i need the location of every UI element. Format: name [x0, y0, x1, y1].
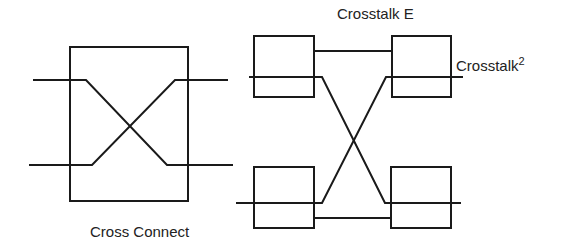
signal-path-bottom-to-top — [236, 77, 463, 203]
switch-box-top-right — [392, 36, 451, 97]
crosstalk-squared-label: Crosstalk2 — [456, 57, 525, 74]
switch-box-bottom-right — [391, 167, 451, 228]
diagram-canvas — [0, 0, 567, 248]
cross-connect-path-bottom-to-top — [29, 80, 228, 165]
crosstalk-squared-exponent: 2 — [519, 55, 525, 67]
crosstalk-squared-base: Crosstalk — [456, 57, 519, 74]
switch-box-bottom-left — [254, 167, 314, 228]
cross-connect-label: Cross Connect — [90, 223, 189, 240]
switch-box-top-left — [254, 36, 314, 97]
crosstalk-e-label: Crosstalk E — [337, 5, 414, 22]
